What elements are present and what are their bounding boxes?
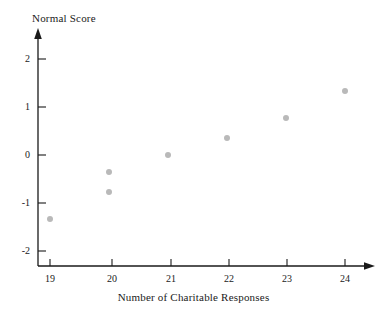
y-axis-arrowhead xyxy=(34,28,42,39)
y-axis-ticks xyxy=(38,59,46,251)
y-tick-label-1: 1 xyxy=(8,101,30,112)
data-point xyxy=(283,115,289,121)
x-axis-title: Number of Charitable Responses xyxy=(0,291,387,303)
data-point xyxy=(106,169,112,175)
y-tick-label-0: 0 xyxy=(8,149,30,160)
x-axis-ticks xyxy=(50,259,345,266)
data-point xyxy=(165,152,171,158)
x-tick-label-23: 23 xyxy=(274,273,300,284)
y-tick-label-minus1: -1 xyxy=(8,197,30,208)
x-tick-label-19: 19 xyxy=(37,273,63,284)
data-point xyxy=(106,189,112,195)
y-axis-title: Normal Score xyxy=(32,12,96,24)
data-point xyxy=(47,216,53,222)
y-tick-label-2: 2 xyxy=(8,53,30,64)
x-tick-label-22: 22 xyxy=(216,273,242,284)
x-tick-label-21: 21 xyxy=(158,273,184,284)
scatter-plot-figure: Normal Score 2 1 0 -1 -2 19 20 21 22 23 … xyxy=(0,0,387,317)
axes-group xyxy=(0,0,387,317)
x-axis-arrowhead xyxy=(364,262,375,270)
y-tick-label-minus2: -2 xyxy=(8,245,30,256)
x-tick-label-20: 20 xyxy=(99,273,125,284)
x-tick-label-24: 24 xyxy=(332,273,358,284)
plot-area: Normal Score 2 1 0 -1 -2 19 20 21 22 23 … xyxy=(0,0,387,317)
